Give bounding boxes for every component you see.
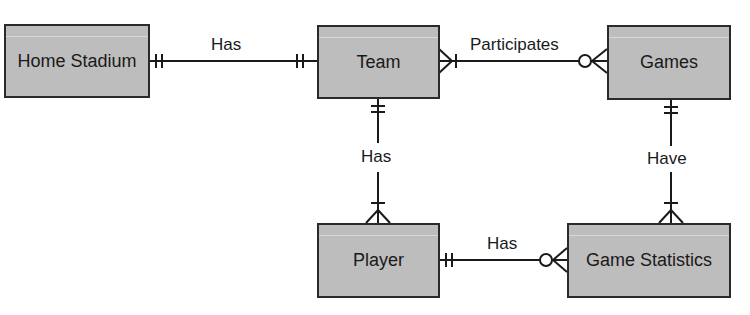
entity-label: Team	[356, 52, 400, 73]
relationship-label-have: Have	[645, 149, 689, 169]
entity-games: Games	[607, 25, 731, 100]
entity-label: Home Stadium	[17, 51, 136, 72]
relationship-label-has-team-player: Has	[359, 147, 393, 167]
entity-team: Team	[317, 25, 440, 99]
relationship-label-has-stadium-team: Has	[209, 35, 243, 55]
entity-label: Player	[353, 250, 404, 271]
relationship-label-participates: Participates	[468, 35, 561, 55]
er-diagram: Home Stadium Team Games Player Game Stat…	[0, 0, 750, 315]
entity-game-statistics: Game Statistics	[567, 223, 731, 298]
entity-home-stadium: Home Stadium	[4, 24, 150, 98]
entity-player: Player	[317, 223, 440, 298]
entity-label: Games	[640, 52, 698, 73]
entity-label: Game Statistics	[586, 250, 712, 271]
relationship-label-has-player-stats: Has	[485, 234, 519, 254]
